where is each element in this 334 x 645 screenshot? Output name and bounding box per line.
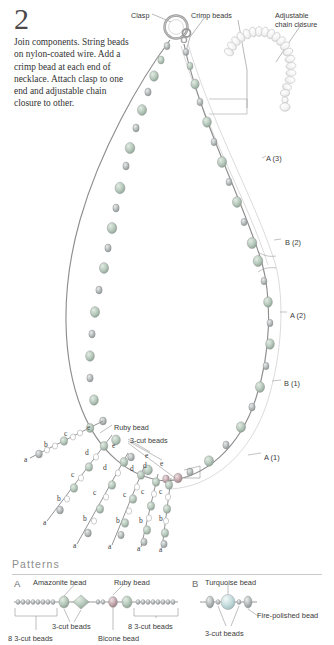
dangle-2-letter-a: a xyxy=(43,518,46,527)
segment-a2: A (2) xyxy=(290,311,306,320)
dangle-5-letter-e: e xyxy=(145,451,148,460)
dangle-1-letter-e: e xyxy=(87,423,90,432)
dangle-4-letter-d: d xyxy=(130,464,134,473)
dangle-4-letter-b: b xyxy=(116,516,120,525)
dangle-5-letter-a: a xyxy=(137,544,140,553)
pattern-label-ruby-bead: Ruby bead xyxy=(114,578,150,587)
pattern-label-three-cut-beads-mid: 3-cut beads xyxy=(52,622,91,631)
pattern-label-eight-three-cut-beads-left: 8 3-cut beads xyxy=(8,634,53,643)
dangle-5-letter-c: c xyxy=(141,487,144,496)
dangle-5-letter-b: b xyxy=(139,516,143,525)
chain-closure-drop xyxy=(280,90,290,112)
beads-right-leg xyxy=(174,48,275,482)
adjustable-chain-closure: Adjustable chain closure xyxy=(275,11,317,29)
dangle-2-letter-b: b xyxy=(57,494,61,503)
patterns-panel: Patterns A B xyxy=(0,556,334,645)
dangle-4-letter-c: c xyxy=(123,490,126,499)
chain-closure-graphic xyxy=(223,26,297,91)
dangle-6-letter-b: b xyxy=(159,514,163,523)
dangle-3-letter-d: d xyxy=(103,463,107,472)
segment-b2: B (2) xyxy=(285,238,301,247)
pattern-label-fire-polished-bead: Fire-polished bead xyxy=(257,611,318,620)
dangle-6-letter-e: e xyxy=(160,459,163,468)
instruction-text: Join components. String beads on nylon-c… xyxy=(14,36,134,110)
dangle-5-letter-d: d xyxy=(143,461,147,470)
segment-b1: B (1) xyxy=(284,379,300,388)
dangle-3-letter-b: b xyxy=(83,514,87,523)
dangle-3-letter-e: e xyxy=(112,441,115,450)
page-root: 2 Join components. String beads on nylon… xyxy=(0,0,334,645)
dangle-4-beads xyxy=(118,471,145,539)
ruby-bead: Ruby bead xyxy=(114,423,149,432)
pattern-label-bicone-bead: Bicone bead xyxy=(98,634,139,643)
dangle-6-letter-a: a xyxy=(159,545,162,554)
segment-a1: A (1) xyxy=(264,453,280,462)
pattern-strips xyxy=(0,556,334,645)
dangle-1-letter-a: a xyxy=(24,455,27,464)
dangle-2-letter-d: d xyxy=(85,448,89,457)
clasp-graphic xyxy=(165,16,191,43)
three-cut-beads: 3-cut beads xyxy=(130,436,168,445)
dangle-3-letter-a: a xyxy=(73,541,76,550)
dangle-6-letter-c: c xyxy=(159,487,162,496)
pattern-label-turquoise-bead: Turquoise bead xyxy=(205,578,256,587)
pattern-label-eight-three-cut-beads-right: 8 3-cut beads xyxy=(128,622,173,631)
step-number: 2 xyxy=(14,4,29,34)
crimp-beads: Crimp beads xyxy=(191,11,232,20)
pattern-label-amazonite-bead: Amazonite bead xyxy=(33,578,86,587)
dangle-4-letter-a: a xyxy=(108,542,111,551)
clasp: Clasp xyxy=(131,11,149,20)
dangle-2-beads xyxy=(57,442,108,514)
dangle-3-letter-c: c xyxy=(93,488,96,497)
dangle-1-letter-b: b xyxy=(44,440,48,449)
pattern-label-three-cut-beads: 3-cut beads xyxy=(205,629,244,638)
dangle-1-letter-c: c xyxy=(64,429,67,438)
dangle-2-letter-c: c xyxy=(71,470,74,479)
segment-a3: A (3) xyxy=(266,154,282,163)
